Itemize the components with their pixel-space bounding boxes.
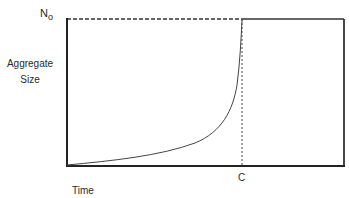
chart-plot	[0, 0, 349, 198]
growth-curve	[67, 20, 242, 165]
